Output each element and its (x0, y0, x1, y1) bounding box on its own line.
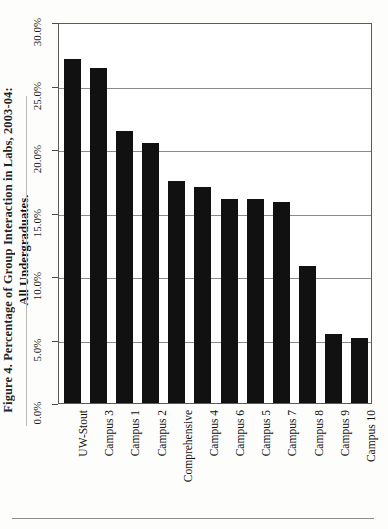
y-tick-label-text: 5.0% (31, 338, 43, 361)
bar (221, 199, 238, 403)
bar (299, 266, 316, 403)
bar (116, 131, 133, 403)
page-margin-rule (26, 96, 27, 426)
x-tick-label: Campus 10 (365, 408, 379, 504)
x-tick-label: Comprehensive (182, 408, 196, 504)
bar (325, 334, 342, 403)
y-tick-mark (52, 404, 58, 405)
x-tick-label: Campus 4 (208, 408, 222, 504)
x-tick-label: Campus 1 (129, 408, 143, 504)
bar (247, 199, 264, 403)
x-tick-label: Campus 8 (313, 408, 327, 504)
figure-page: Figure 4. Percentage of Group Interactio… (0, 0, 388, 529)
x-tick-label: Campus 6 (234, 408, 248, 504)
bar (168, 181, 185, 403)
plot-area (58, 23, 372, 404)
y-tick-label-text: 25.0% (31, 81, 43, 109)
y-tick-label-text: 15.0% (31, 208, 43, 236)
y-tick-label-text: 0.0% (31, 402, 43, 425)
x-tick-label: Campus 5 (260, 408, 274, 504)
x-tick-label: Campus 2 (156, 408, 170, 504)
x-tick-label: Campus 3 (103, 408, 117, 504)
bar-series (59, 24, 371, 403)
y-tick-label-text: 10.0% (31, 272, 43, 300)
figure-title-line-2: All Undergraduates. (16, 0, 32, 500)
bar (194, 187, 211, 403)
y-tick-label-text: 30.0% (31, 18, 43, 46)
y-tick-label-text: 20.0% (31, 145, 43, 173)
bar (142, 143, 159, 403)
x-axis-labels: UW-StoutCampus 3Campus 1Campus 2Comprehe… (58, 408, 372, 504)
x-tick-label: Campus 7 (286, 408, 300, 504)
bar (351, 338, 368, 403)
x-tick-label: Campus 9 (339, 408, 353, 504)
bar (64, 59, 81, 403)
page-footer-rule (12, 518, 374, 519)
bar (90, 68, 107, 403)
x-tick-label: UW-Stout (77, 408, 91, 504)
figure-title: Figure 4. Percentage of Group Interactio… (0, 0, 44, 500)
bar (273, 202, 290, 403)
figure-title-line-1: Figure 4. Percentage of Group Interactio… (0, 0, 16, 500)
